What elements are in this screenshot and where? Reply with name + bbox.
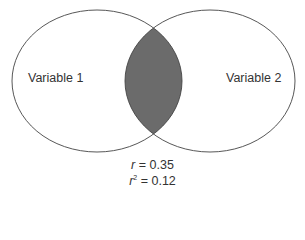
stat-r-squared: r2 = 0.12 (0, 174, 305, 188)
label-variable-2: Variable 2 (226, 71, 281, 85)
label-variable-1: Variable 1 (28, 71, 83, 85)
r-value: = 0.35 (139, 158, 174, 172)
r2-exponent: 2 (133, 174, 137, 181)
stat-r: r = 0.35 (0, 158, 305, 172)
r2-value: = 0.12 (141, 174, 176, 188)
r-symbol: r (131, 158, 135, 172)
